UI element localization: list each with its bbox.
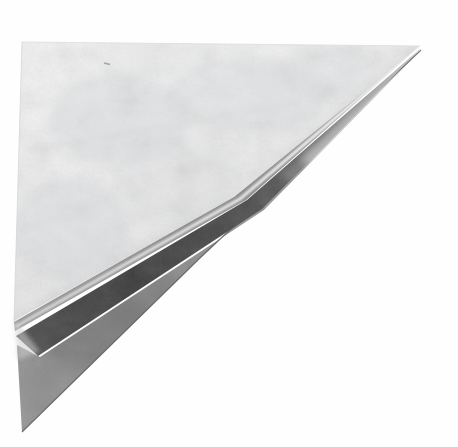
photo-canvas: Curled paper corner paper front surface …	[0, 0, 458, 447]
curled-paper-photograph	[0, 0, 458, 447]
